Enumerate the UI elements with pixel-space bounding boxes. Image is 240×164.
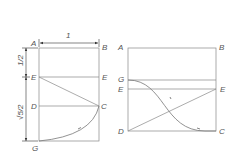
label-g: G — [118, 75, 124, 84]
label-a: A — [30, 39, 36, 48]
label-e-left: E — [118, 85, 124, 94]
left-figure: 1 1/2 √5/2 A B E E D C G — [16, 31, 108, 153]
label-e-right: E — [220, 85, 226, 94]
right-figure: A B G E E D C — [117, 43, 226, 136]
left-diagonal-ec — [39, 77, 99, 106]
label-e-left: E — [31, 73, 37, 82]
golden-ratio-diagram: 1 1/2 √5/2 A B E E D C G A B G E E D C — [0, 0, 240, 164]
label-c: C — [101, 102, 107, 111]
left-rectangle — [39, 48, 99, 141]
right-diagonal-de — [128, 89, 216, 131]
right-s-curve — [128, 80, 216, 131]
label-d: D — [118, 127, 124, 136]
arc-arrow-icon — [78, 128, 81, 130]
label-c: C — [219, 127, 225, 136]
left-arc-cg — [39, 106, 99, 141]
width-label: 1 — [66, 31, 70, 40]
label-e-right: E — [102, 73, 108, 82]
label-g: G — [32, 144, 38, 153]
lower-dimension-label: √5/2 — [16, 104, 25, 120]
curve-arrow-icon — [170, 97, 200, 129]
label-a: A — [117, 43, 123, 52]
right-rectangle — [128, 48, 216, 131]
label-b: B — [219, 43, 225, 52]
label-d: D — [31, 102, 37, 111]
upper-dimension-label: 1/2 — [16, 54, 25, 66]
label-b: B — [102, 43, 108, 52]
